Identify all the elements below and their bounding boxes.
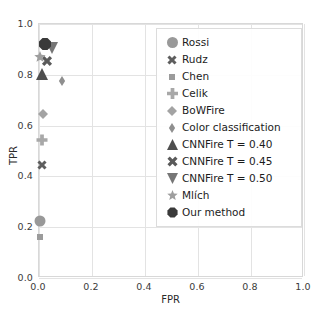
legend-item: Rudz (162, 51, 295, 68)
legend: RossiRudzChenCelikBoWFireColor classific… (156, 28, 302, 227)
legend-item: Rossi (162, 34, 295, 51)
gridline-horizontal (39, 278, 302, 279)
x-tick-label: 0.6 (189, 281, 204, 292)
data-point (37, 35, 54, 52)
data-point (35, 158, 49, 172)
legend-item-label: Chen (182, 68, 209, 85)
data-point (35, 132, 50, 147)
legend-item-label: Celik (182, 85, 208, 102)
gridline-horizontal (39, 24, 302, 25)
x-tick-label: 0.8 (242, 281, 257, 292)
legend-item-label: Rudz (182, 51, 208, 68)
legend-marker-icon (162, 51, 182, 68)
legend-marker-icon (162, 136, 182, 153)
y-tick-label: 0.6 (18, 119, 33, 130)
legend-marker-icon (162, 119, 182, 136)
data-point (36, 107, 50, 121)
y-axis-title: TPR (8, 126, 19, 186)
legend-marker-icon (162, 153, 182, 170)
y-tick-label: 1.0 (18, 18, 33, 29)
legend-item-label: Our method (182, 204, 245, 221)
legend-item: BoWFire (162, 102, 295, 119)
legend-item-label: Rossi (182, 34, 209, 51)
legend-marker-icon (162, 85, 182, 102)
gridline-vertical (145, 24, 146, 276)
legend-item: Color classification (162, 119, 295, 136)
legend-item: Mlích (162, 187, 295, 204)
x-tick-label: 0.4 (136, 281, 151, 292)
data-point (33, 213, 48, 228)
legend-item-label: CNNFire T = 0.40 (182, 136, 272, 153)
y-tick-label: 0.2 (18, 221, 33, 232)
data-point (55, 74, 69, 88)
gridline-vertical (304, 24, 305, 276)
legend-item: Our method (162, 204, 295, 221)
legend-item: CNNFire T = 0.50 (162, 170, 295, 187)
legend-marker-icon (162, 102, 182, 119)
legend-item: CNNFire T = 0.40 (162, 136, 295, 153)
gridline-horizontal (39, 227, 302, 228)
y-tick-label: 0.0 (18, 272, 33, 283)
roc-scatter-figure: 0.00.20.40.60.81.0 0.00.20.40.60.81.0 FP… (0, 0, 334, 331)
legend-marker-icon (162, 68, 182, 85)
x-tick-label: 0.0 (30, 281, 45, 292)
legend-item-label: Color classification (182, 119, 281, 136)
legend-marker-icon (162, 34, 182, 51)
x-tick-label: 0.2 (83, 281, 98, 292)
data-point (35, 232, 45, 242)
legend-marker-icon (162, 170, 182, 187)
legend-item: Chen (162, 68, 295, 85)
legend-item-label: CNNFire T = 0.45 (182, 153, 272, 170)
legend-item-label: BoWFire (182, 102, 225, 119)
legend-item: Celik (162, 85, 295, 102)
legend-item-label: CNNFire T = 0.50 (182, 170, 272, 187)
legend-marker-icon (162, 204, 182, 221)
x-axis-title: FPR (38, 294, 303, 305)
x-tick-label: 1.0 (295, 281, 310, 292)
legend-marker-icon (162, 187, 182, 204)
y-tick-label: 0.4 (18, 170, 33, 181)
y-tick-label: 0.8 (18, 68, 33, 79)
legend-item-label: Mlích (182, 187, 209, 204)
legend-item: CNNFire T = 0.45 (162, 153, 295, 170)
gridline-vertical (92, 24, 93, 276)
